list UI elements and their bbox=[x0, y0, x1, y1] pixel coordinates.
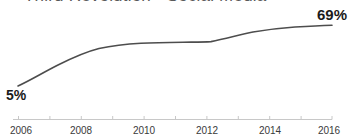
x-tick-label-2010: 2010 bbox=[133, 125, 155, 136]
line-chart-plot bbox=[0, 0, 351, 139]
x-axis-ticks bbox=[19, 116, 333, 120]
x-tick-label-2006: 2006 bbox=[10, 125, 32, 136]
start-value-label: 5% bbox=[6, 87, 26, 103]
chart-container: Third Revolution - Social Media 5% 69% 2… bbox=[0, 0, 351, 139]
x-tick-label-2016: 2016 bbox=[318, 125, 340, 136]
x-tick-label-2008: 2008 bbox=[70, 125, 92, 136]
x-tick-label-2014: 2014 bbox=[259, 125, 281, 136]
data-line-social-media bbox=[18, 25, 332, 86]
x-tick-label-2012: 2012 bbox=[196, 125, 218, 136]
end-value-label: 69% bbox=[317, 6, 347, 23]
